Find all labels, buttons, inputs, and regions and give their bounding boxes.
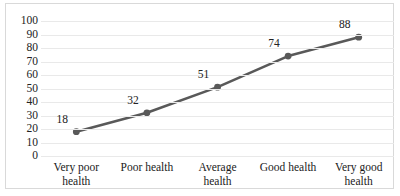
data-point-label-3: 74 xyxy=(268,38,280,50)
x-axis-label-line: health xyxy=(41,174,112,188)
y-axis-tick-60: 60 xyxy=(10,69,38,81)
data-point-label-1: 32 xyxy=(127,94,139,106)
x-axis-label-line: Good health xyxy=(253,160,324,174)
x-axis-label-line: Average xyxy=(182,160,253,174)
data-point-label-4: 88 xyxy=(339,19,351,31)
y-axis-tick-100: 100 xyxy=(10,15,38,27)
gridline-0 xyxy=(41,156,394,157)
gridline-40 xyxy=(41,102,394,103)
chart-frame: 1009080706050403020100 1832517488 Very p… xyxy=(5,3,394,189)
y-axis-tick-0: 0 xyxy=(10,150,38,162)
y-axis-tick-20: 20 xyxy=(10,123,38,135)
y-axis-tick-10: 10 xyxy=(10,137,38,149)
gridline-30 xyxy=(41,116,394,117)
gridline-10 xyxy=(41,143,394,144)
x-axis-label-1: Poor health xyxy=(112,160,183,194)
plot-area: 1832517488 xyxy=(41,21,394,156)
gridline-90 xyxy=(41,35,394,36)
y-axis-tick-90: 90 xyxy=(10,29,38,41)
data-point-marker-2 xyxy=(214,84,221,91)
x-axis-label-line: health xyxy=(182,174,253,188)
y-axis-tick-50: 50 xyxy=(10,83,38,95)
data-point-marker-3 xyxy=(285,53,292,60)
gridline-80 xyxy=(41,48,394,49)
x-axis-label-line: Very poor xyxy=(41,160,112,174)
x-axis-label-0: Very poorhealth xyxy=(41,160,112,194)
y-axis-tick-70: 70 xyxy=(10,56,38,68)
y-axis-tick-30: 30 xyxy=(10,110,38,122)
y-axis-tick-labels: 1009080706050403020100 xyxy=(6,21,38,156)
x-axis-category-labels: Very poorhealthPoor healthAveragehealthG… xyxy=(41,160,394,194)
x-axis-label-4: Very goodhealth xyxy=(323,160,394,194)
x-axis-label-3: Good health xyxy=(253,160,324,194)
x-axis-label-2: Averagehealth xyxy=(182,160,253,194)
x-axis-label-line: Poor health xyxy=(112,160,183,174)
y-axis-tick-80: 80 xyxy=(10,42,38,54)
data-point-label-2: 51 xyxy=(198,69,210,81)
x-axis-label-line: Very good xyxy=(323,160,394,174)
gridline-50 xyxy=(41,89,394,90)
y-axis-tick-40: 40 xyxy=(10,96,38,108)
data-point-label-0: 18 xyxy=(57,113,69,125)
gridline-20 xyxy=(41,129,394,130)
gridline-60 xyxy=(41,75,394,76)
gridline-70 xyxy=(41,62,394,63)
x-axis-label-line: health xyxy=(323,174,394,188)
